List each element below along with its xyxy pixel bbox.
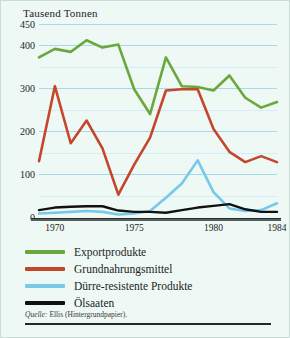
legend-item-duerre-resistente-produkte[interactable]: Dürre-resistente Produkte <box>25 277 275 294</box>
legend-item-oelsaaten[interactable]: Ölsaaten <box>25 294 275 311</box>
series-line-grundnahrungsmittel <box>39 86 277 195</box>
legend-label-oelsaaten: Ölsaaten <box>74 297 114 309</box>
y-tick-400: 400 <box>20 40 35 51</box>
y-tick-450: 450 <box>20 19 35 30</box>
chart-figure: Tausend Tonnen 0100200300400450 19701975… <box>0 0 290 338</box>
y-tick-200: 200 <box>20 126 35 137</box>
chart-title: Tausend Tonnen <box>23 7 98 19</box>
chart-legend: ExportprodukteGrundnahrungsmittelDürre-r… <box>25 243 275 311</box>
legend-swatch-exportprodukte <box>25 250 65 254</box>
legend-swatch-duerre-resistente-produkte <box>25 284 65 288</box>
x-tick-1975: 1975 <box>125 223 144 233</box>
source-note: Quelle: Ellis (Hintergrundpapier). <box>25 310 127 319</box>
legend-swatch-oelsaaten <box>25 301 65 305</box>
x-tick-1984: 1984 <box>268 223 287 233</box>
x-tick-1970: 1970 <box>45 223 64 233</box>
x-axis-line <box>31 219 281 221</box>
y-tick-100: 100 <box>20 169 35 180</box>
x-axis-line-highlight <box>31 218 281 219</box>
legend-label-duerre-resistente-produkte: Dürre-resistente Produkte <box>74 280 192 292</box>
series-lines <box>39 24 277 217</box>
legend-label-grundnahrungsmittel: Grundnahrungsmittel <box>74 263 172 275</box>
source-label: Quelle: <box>25 310 48 319</box>
legend-label-exportprodukte: Exportprodukte <box>74 246 146 258</box>
series-line-exportprodukte <box>39 40 277 114</box>
legend-item-exportprodukte[interactable]: Exportprodukte <box>25 243 275 260</box>
source-text: Ellis (Hintergrundpapier). <box>49 310 127 319</box>
y-tick-300: 300 <box>20 83 35 94</box>
plot-area: 0100200300400450 <box>39 24 277 217</box>
legend-item-grundnahrungsmittel[interactable]: Grundnahrungsmittel <box>25 260 275 277</box>
bottom-rule <box>25 323 271 325</box>
legend-swatch-grundnahrungsmittel <box>25 267 65 271</box>
x-tick-1980: 1980 <box>204 223 223 233</box>
